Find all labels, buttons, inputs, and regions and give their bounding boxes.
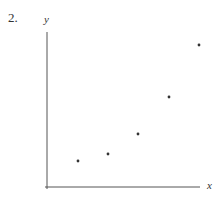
data-point [198,44,201,47]
scatter-plot [0,0,223,200]
data-points [77,44,201,163]
data-point [137,133,140,136]
data-point [107,153,110,156]
data-point [168,96,171,99]
data-point [77,160,80,163]
